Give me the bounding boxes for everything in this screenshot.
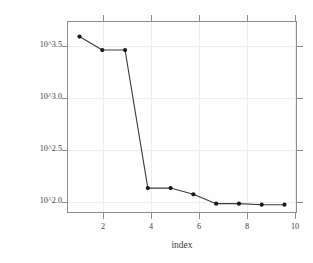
ytick-label-wrap-2.0: 10^2.0 [14,196,62,207]
ytick-label-2.0: 10^2.0 [18,196,62,205]
data-point-4 [146,186,150,190]
xtick-label-10: 10 [282,222,308,231]
xtick-label-6: 6 [186,222,212,231]
ytick-label-2.5: 10^2.5 [18,144,62,153]
data-point-3 [123,48,127,52]
chart-figure: 10^3.5 10^3.0 10^2.5 10^2.0 2 4 6 8 10 e… [0,0,313,263]
ytick-label-3.5: 10^3.5 [18,40,62,49]
data-point-8 [237,202,241,206]
data-point-7 [214,202,218,206]
xtick-label-4: 4 [138,222,164,231]
ytick-label-3.0: 10^3.0 [18,92,62,101]
data-point-10 [282,203,286,207]
data-point-5 [169,186,173,190]
series-markers [77,34,286,206]
ytick-label-wrap-3.0: 10^3.0 [14,92,62,103]
data-point-2 [100,48,104,52]
xtick-label-8: 8 [234,222,260,231]
xtick-label-2: 2 [90,222,116,231]
ytick-label-wrap-3.5: 10^3.5 [14,40,62,51]
data-point-6 [191,192,195,196]
x-axis-title: index [67,240,297,250]
data-point-9 [260,203,264,207]
data-point-1 [77,34,81,38]
ytick-label-wrap-2.5: 10^2.5 [14,144,62,155]
series-line-eigenvalue-norms [80,37,285,205]
